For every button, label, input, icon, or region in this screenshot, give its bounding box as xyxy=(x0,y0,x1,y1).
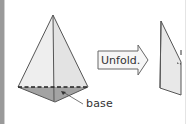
right-clip-rule xyxy=(185,0,186,124)
unfold-label: Unfold. xyxy=(101,54,140,67)
base-label: base xyxy=(86,97,113,110)
unfold-arrow: Unfold. xyxy=(98,45,148,75)
partial-net xyxy=(160,21,181,95)
pyramid-base xyxy=(18,87,88,102)
